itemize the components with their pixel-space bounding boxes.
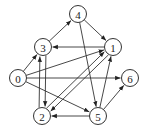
node-4: 4 [70, 6, 87, 23]
edge-0-to-5 [26, 82, 90, 112]
edge-0-to-3 [23, 54, 37, 71]
node-3: 3 [35, 39, 52, 56]
directed-graph: 0123456 [0, 0, 147, 130]
edge-5-to-6 [104, 85, 124, 109]
edge-5-to-1 [100, 56, 111, 107]
node-label: 5 [95, 111, 101, 123]
edge-4-to-1 [84, 20, 106, 41]
edge-2-to-1 [46, 52, 104, 109]
node-label: 1 [110, 42, 116, 54]
edge-4-to-5 [80, 22, 97, 106]
node-2: 2 [34, 108, 51, 125]
node-label: 6 [127, 73, 133, 85]
node-label: 0 [15, 73, 21, 85]
node-6: 6 [122, 70, 139, 87]
node-label: 2 [39, 111, 45, 123]
node-1: 1 [105, 39, 122, 56]
node-label: 3 [40, 42, 46, 54]
edge-3-to-4 [49, 21, 71, 42]
node-0: 0 [10, 70, 27, 87]
edge-3-to-2 [45, 56, 46, 107]
node-5: 5 [90, 108, 107, 125]
node-label: 4 [75, 9, 81, 21]
edge-1-to-2 [51, 55, 109, 111]
edge-2-to-3 [39, 57, 40, 108]
edges-group [23, 20, 124, 116]
